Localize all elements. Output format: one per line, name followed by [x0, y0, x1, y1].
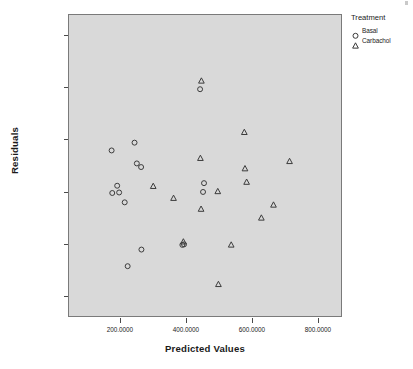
data-point	[198, 206, 204, 211]
scatter-plot-chart: Residuals 60.000040.000020.0000.0000-20.…	[0, 0, 413, 369]
data-point	[242, 166, 248, 171]
data-point	[125, 264, 130, 269]
data-point	[271, 202, 277, 207]
data-point	[241, 129, 247, 134]
data-points-layer	[69, 15, 341, 316]
legend-item-label: Carbachol	[362, 37, 391, 44]
x-axis-tick-label: 600.0000	[217, 326, 287, 333]
x-axis-tick-mark	[318, 318, 319, 323]
legend-item-basal[interactable]: Basal	[351, 26, 413, 35]
data-point	[117, 190, 122, 195]
data-point	[202, 181, 207, 186]
data-point	[198, 155, 204, 160]
data-point	[216, 281, 222, 286]
x-axis-tick-label: 400.0000	[151, 326, 221, 333]
data-point	[244, 179, 250, 184]
series-carbachol	[150, 78, 292, 287]
x-axis-tick-label: 800.0000	[283, 326, 353, 333]
legend-title: Treatment	[351, 13, 413, 22]
data-point	[199, 78, 205, 83]
data-point	[122, 200, 127, 205]
corner-artifact	[405, 1, 408, 5]
x-axis-title: Predicted Values	[68, 343, 342, 354]
data-point	[115, 183, 120, 188]
x-axis-tick-mark	[120, 318, 121, 323]
series-basal	[109, 87, 206, 269]
triangle-marker-icon	[351, 36, 360, 45]
legend-item-label: Basal	[362, 27, 378, 34]
data-point	[109, 148, 114, 153]
data-point	[181, 239, 187, 244]
data-point	[132, 140, 137, 145]
data-point	[228, 242, 234, 247]
legend-entries: BasalCarbachol	[351, 26, 413, 45]
x-axis-tick-label: 200.0000	[85, 326, 155, 333]
data-point	[259, 215, 265, 220]
data-point	[134, 161, 139, 166]
data-point	[139, 247, 144, 252]
circle-marker-icon	[351, 26, 360, 35]
y-axis: Residuals 60.000040.000020.0000.0000-20.…	[0, 0, 68, 369]
data-point	[110, 191, 115, 196]
legend: Treatment BasalCarbachol	[351, 13, 413, 46]
plot-area	[68, 14, 342, 317]
data-point	[150, 183, 156, 188]
x-axis: Predicted Values 200.0000400.0000600.000…	[0, 317, 413, 369]
data-point	[198, 87, 203, 92]
data-point	[171, 195, 177, 200]
data-point	[139, 165, 144, 170]
data-point	[215, 188, 221, 193]
x-axis-tick-mark	[252, 318, 253, 323]
x-axis-tick-mark	[186, 318, 187, 323]
data-point	[201, 189, 206, 194]
y-axis-title: Residuals	[9, 71, 20, 231]
legend-item-carbachol[interactable]: Carbachol	[351, 36, 413, 45]
data-point	[287, 158, 293, 163]
